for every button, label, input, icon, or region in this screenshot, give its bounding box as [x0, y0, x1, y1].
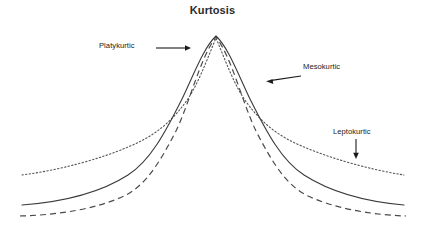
kurtosis-curves-plot	[0, 0, 425, 228]
kurtosis-figure: Kurtosis Platykurtic Mesokurtic Leptokur…	[0, 0, 425, 228]
curve-mesokurtic	[22, 36, 404, 205]
curve-label-leptokurtic: Leptokurtic	[333, 127, 371, 136]
arrow-platykurtic	[156, 45, 191, 51]
page-title: Kurtosis	[0, 4, 425, 16]
curve-label-platykurtic: Platykurtic	[99, 41, 135, 50]
arrow-mesokurtic	[266, 76, 301, 84]
curve-label-mesokurtic: Mesokurtic	[303, 62, 340, 71]
curve-leptokurtic	[22, 38, 404, 175]
arrow-leptokurtic	[353, 139, 359, 159]
